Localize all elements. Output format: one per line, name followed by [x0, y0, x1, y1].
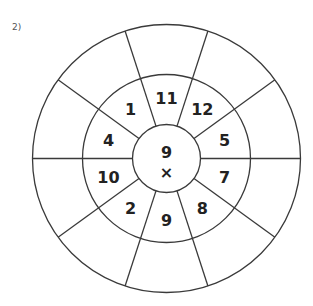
sector-number: 10: [97, 168, 119, 187]
sector-number: 5: [219, 131, 230, 150]
sector-number: 11: [155, 89, 177, 108]
sector-number: 2: [125, 199, 136, 218]
multiplication-wheel: 1112578921041 9 ×: [0, 0, 313, 306]
sector-number: 12: [191, 100, 213, 119]
sector-number: 9: [161, 211, 172, 230]
sector-number: 7: [219, 168, 230, 187]
multiply-sign-icon: ×: [160, 163, 173, 182]
sector-number: 1: [125, 100, 136, 119]
sector-number: 4: [103, 131, 114, 150]
sector-number: 8: [197, 199, 208, 218]
center-multiplier: 9: [161, 143, 172, 162]
